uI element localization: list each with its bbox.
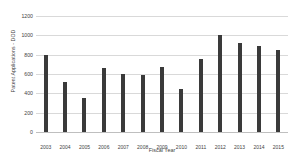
bar-slot	[249, 16, 268, 132]
bar[interactable]	[160, 67, 164, 132]
bar-chart: Patent Applications - DOD 02004006008001…	[0, 0, 298, 162]
bar[interactable]	[199, 59, 203, 132]
y-axis-tick-label: 600	[24, 71, 33, 77]
plot-area: 020040060080010001200	[36, 16, 288, 132]
bar-slot	[133, 16, 152, 132]
y-axis-tick-label: 800	[24, 52, 33, 58]
bar-slot	[94, 16, 113, 132]
bar[interactable]	[63, 82, 67, 132]
bar-slot	[269, 16, 288, 132]
bar[interactable]	[238, 43, 242, 132]
bar[interactable]	[276, 50, 280, 132]
bar-slot	[152, 16, 171, 132]
bar-series	[36, 16, 288, 132]
bar-slot	[75, 16, 94, 132]
gridline: 0	[36, 132, 288, 133]
y-axis-tick-label: 1000	[21, 32, 33, 38]
bar-slot	[191, 16, 210, 132]
bar[interactable]	[102, 68, 106, 132]
bar-slot	[55, 16, 74, 132]
y-axis-tick-label: 1200	[21, 13, 33, 19]
bar-slot	[211, 16, 230, 132]
bar-slot	[172, 16, 191, 132]
y-axis-tick-label: 0	[30, 129, 33, 135]
bar[interactable]	[121, 74, 125, 132]
bar[interactable]	[179, 89, 183, 133]
y-axis-title: Patent Applications - DOD	[10, 1, 16, 121]
bar[interactable]	[257, 46, 261, 132]
bar-slot	[114, 16, 133, 132]
x-axis-title: Fiscal Year	[36, 147, 288, 153]
y-axis-tick-label: 200	[24, 110, 33, 116]
bar-slot	[230, 16, 249, 132]
bar-slot	[36, 16, 55, 132]
bar[interactable]	[218, 35, 222, 132]
y-axis-tick-label: 400	[24, 90, 33, 96]
bar[interactable]	[44, 55, 48, 132]
bar[interactable]	[82, 98, 86, 132]
bar[interactable]	[141, 75, 145, 132]
